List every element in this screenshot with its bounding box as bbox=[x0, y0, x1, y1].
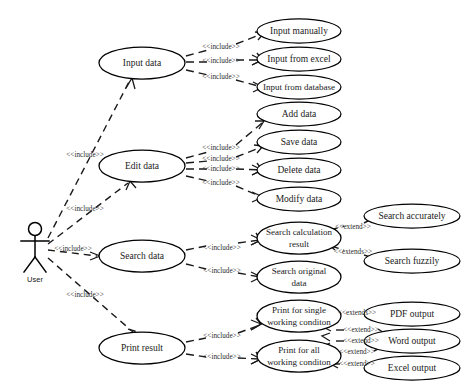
extension-use-cases: Search accurately Search fuzzily PDF out… bbox=[364, 204, 460, 380]
label-search-original-data-line1: Search original bbox=[272, 266, 327, 276]
use-case-input-from-database[interactable]: Input from database bbox=[257, 75, 341, 99]
label-word-output: Word output bbox=[388, 336, 436, 346]
label-search-data: Search data bbox=[120, 251, 165, 261]
primary-use-cases: Input data Edit data Search data Print r… bbox=[99, 47, 185, 364]
label-input-data: Input data bbox=[123, 58, 162, 68]
stereotype-print-to-single: <<include>> bbox=[203, 332, 240, 340]
use-case-input-data[interactable]: Input data bbox=[99, 47, 185, 79]
label-modify-data: Modify data bbox=[276, 194, 323, 204]
use-case-input-from-excel[interactable]: Input from excel bbox=[257, 47, 341, 71]
use-case-search-original-data[interactable]: Search original data bbox=[257, 261, 341, 293]
label-pdf-output: PDF output bbox=[390, 309, 434, 319]
stereotype-pdf-extends: <<extends>> bbox=[338, 309, 376, 317]
stereotype-actor-to-print: <<include>> bbox=[66, 291, 103, 299]
stereotype-word-extends-single: <<extend>> bbox=[343, 326, 378, 334]
stereotype-input-to-database: <<include>> bbox=[202, 73, 239, 81]
label-input-from-excel: Input from excel bbox=[267, 54, 331, 64]
label-print-result: Print result bbox=[121, 343, 163, 353]
use-case-search-fuzzily[interactable]: Search fuzzily bbox=[364, 249, 460, 273]
use-case-search-accurately[interactable]: Search accurately bbox=[364, 204, 460, 228]
stereotype-actor-to-edit: <<include>> bbox=[66, 205, 103, 213]
use-case-input-manually[interactable]: Input manually bbox=[257, 19, 341, 43]
label-print-all-line2: working conditon bbox=[267, 357, 331, 367]
label-search-fuzzily: Search fuzzily bbox=[385, 256, 440, 266]
stereotype-edit-to-add: <<include>> bbox=[202, 144, 239, 152]
actor-left-leg-icon bbox=[24, 257, 35, 272]
label-print-single-line1: Print for single bbox=[272, 305, 326, 315]
stereotype-search-to-calc: <<include>> bbox=[203, 244, 240, 252]
label-edit-data: Edit data bbox=[125, 161, 160, 171]
use-case-search-data[interactable]: Search data bbox=[99, 240, 185, 272]
stereotype-excel-extends-all: <<extend>> bbox=[339, 360, 374, 368]
stereotype-print-to-all: <<include>> bbox=[203, 353, 240, 361]
use-case-delete-data[interactable]: Delete data bbox=[257, 158, 341, 182]
stereotype-edit-to-modify: <<include>> bbox=[202, 179, 239, 187]
stereotype-actor-to-search: <<include>> bbox=[54, 245, 91, 253]
stereotype-word-extends-all: <<extend>> bbox=[339, 348, 374, 356]
stereotype-edit-to-delete: <<include>> bbox=[202, 165, 239, 173]
use-case-modify-data[interactable]: Modify data bbox=[257, 187, 341, 211]
arrowhead-extend-excel-single bbox=[322, 333, 330, 341]
use-case-excel-output[interactable]: Excel output bbox=[364, 356, 460, 380]
stereotype-fuzzily-extends: <<extends>> bbox=[334, 248, 372, 256]
stereotype-input-to-excel: <<include>> bbox=[202, 57, 239, 65]
line-input-manually-a bbox=[186, 50, 208, 56]
use-case-pdf-output[interactable]: PDF output bbox=[364, 302, 460, 326]
stereotype-excel-extends-single: <<extend>> bbox=[343, 337, 378, 345]
secondary-use-cases: Input manually Input from excel Input fr… bbox=[257, 19, 341, 372]
label-input-from-database: Input from database bbox=[263, 82, 335, 92]
label-search-original-data-line2: data bbox=[292, 278, 307, 288]
label-input-manually: Input manually bbox=[270, 26, 328, 36]
label-save-data: Save data bbox=[281, 137, 318, 147]
actor-right-leg-icon bbox=[35, 257, 46, 272]
actor-stereotype-labels: <<include>> <<include>> <<include>> <<in… bbox=[54, 151, 103, 299]
stereotype-input-to-manually: <<include>> bbox=[202, 43, 239, 51]
use-case-add-data[interactable]: Add data bbox=[257, 102, 341, 126]
use-case-edit-data[interactable]: Edit data bbox=[99, 150, 185, 182]
label-search-calculation-result-line2: result bbox=[289, 239, 309, 249]
label-print-all-line1: Print for all bbox=[278, 345, 320, 355]
use-case-print-result[interactable]: Print result bbox=[99, 332, 185, 364]
stereotype-actor-to-input: <<include>> bbox=[66, 151, 103, 159]
uml-diagram-svg: User Input data Edit data Search data Pr… bbox=[0, 0, 466, 388]
actor-label: User bbox=[27, 275, 43, 284]
label-search-accurately: Search accurately bbox=[378, 211, 445, 221]
stereotype-edit-to-save: <<include>> bbox=[202, 155, 239, 163]
label-excel-output: Excel output bbox=[388, 363, 437, 373]
include-stereotype-labels: <<include>> <<include>> <<include>> <<in… bbox=[202, 43, 240, 361]
label-search-calculation-result-line1: Search calculation bbox=[266, 227, 333, 237]
label-delete-data: Delete data bbox=[278, 165, 322, 175]
arrowhead-input-data bbox=[126, 78, 135, 89]
use-case-search-calculation-result[interactable]: Search calculation result bbox=[257, 222, 341, 254]
label-print-single-line2: working conditon bbox=[267, 317, 331, 327]
stereotype-search-to-original: <<include>> bbox=[203, 267, 240, 275]
label-add-data: Add data bbox=[282, 109, 317, 119]
actor-user[interactable]: User bbox=[21, 223, 49, 285]
stereotype-accurately-extends: <<extend>> bbox=[335, 223, 370, 231]
use-case-print-all-working-condition[interactable]: Print for all working conditon bbox=[257, 340, 341, 372]
actor-head-icon bbox=[29, 223, 42, 236]
use-case-save-data[interactable]: Save data bbox=[257, 130, 341, 154]
use-case-diagram-canvas: User Input data Edit data Search data Pr… bbox=[0, 0, 466, 388]
use-case-print-single-working-condition[interactable]: Print for single working conditon bbox=[257, 300, 341, 332]
